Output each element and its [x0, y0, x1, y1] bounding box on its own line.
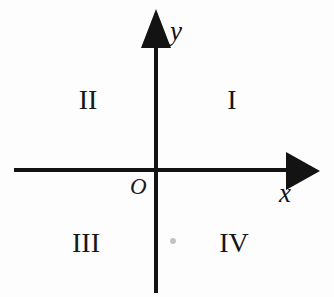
y-axis-label: y: [170, 18, 182, 45]
quadrant-label-1: I: [227, 86, 236, 114]
x-axis-arrow-icon: [286, 152, 320, 190]
quadrant-label-3: III: [72, 229, 100, 257]
quadrant-label-2: II: [79, 86, 98, 114]
x-axis-line: [14, 168, 292, 172]
quadrant-label-4: IV: [219, 229, 249, 257]
y-axis-line: [154, 42, 158, 293]
coordinate-plane-diagram: y x O I II III IV: [0, 0, 334, 297]
y-axis-arrow-icon: [141, 9, 171, 48]
origin-label: O: [130, 175, 147, 198]
x-axis-label: x: [279, 180, 291, 207]
scan-speck-artifact: [170, 238, 176, 244]
